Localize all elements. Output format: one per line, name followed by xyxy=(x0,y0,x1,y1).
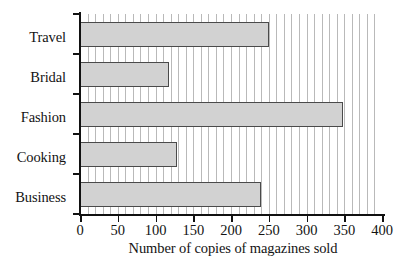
y-axis-category-labels: Travel Bridal Fashion Cooking Business xyxy=(0,14,72,214)
x-axis-title-text: Number of copies of magazines sold xyxy=(129,240,338,256)
x-axis-title: Number of copies of magazines sold xyxy=(0,240,418,256)
x-axis-tick-label: 150 xyxy=(182,222,204,238)
y-axis-line xyxy=(79,12,81,216)
y-axis-tick xyxy=(73,13,80,15)
y-axis-tick xyxy=(73,213,80,215)
x-axis-tick-label: 0 xyxy=(76,222,83,238)
y-axis-tick xyxy=(73,133,80,135)
bar-chart: Travel Bridal Fashion Cooking Business 0… xyxy=(0,0,418,260)
x-axis-tick-labels: 050100150200250300350400 xyxy=(0,222,418,242)
x-axis-tick-label: 200 xyxy=(220,222,242,238)
y-axis-label-cooking: Cooking xyxy=(0,150,66,165)
plot-area xyxy=(80,14,382,214)
y-axis-label-fashion: Fashion xyxy=(0,110,66,125)
x-axis-tick-label: 350 xyxy=(333,222,355,238)
y-axis-label-travel: Travel xyxy=(0,30,66,45)
bars-layer xyxy=(80,14,382,214)
y-axis-label-business: Business xyxy=(0,190,66,205)
bar-business xyxy=(80,182,261,207)
x-axis-tick-label: 300 xyxy=(296,222,318,238)
y-axis-tick xyxy=(73,53,80,55)
bar-travel xyxy=(80,22,269,47)
bar-cooking xyxy=(80,142,177,167)
x-axis-tick-label: 250 xyxy=(258,222,280,238)
y-axis-tick xyxy=(73,93,80,95)
x-axis-tick-label: 100 xyxy=(145,222,167,238)
y-axis-tick xyxy=(73,173,80,175)
x-axis-tick-label: 400 xyxy=(371,222,393,238)
x-axis-tick-label: 50 xyxy=(111,222,126,238)
bar-fashion xyxy=(80,102,343,127)
y-axis-label-bridal: Bridal xyxy=(0,70,66,85)
bar-bridal xyxy=(80,62,169,87)
